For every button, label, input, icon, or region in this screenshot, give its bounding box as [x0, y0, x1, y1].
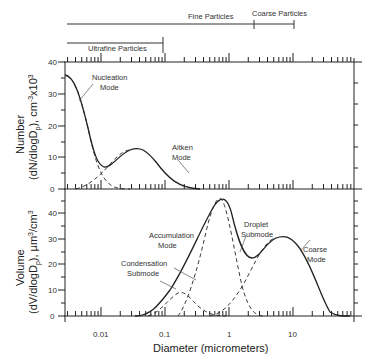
condensation-label: Condensation	[121, 259, 167, 268]
number-total-curve	[65, 75, 200, 189]
aitken-label: Aitken	[172, 143, 193, 152]
droplet-label: Droplet	[244, 220, 269, 229]
droplet-label-2: Submode	[241, 230, 273, 239]
aitken-label-2: Mode	[172, 153, 191, 162]
fine-particles-label: Fine Particles	[188, 12, 234, 21]
x-tick-1: 1	[227, 330, 232, 339]
y-tick-10: 10	[48, 286, 57, 295]
condensation-submode-curve	[148, 292, 226, 316]
coarse-label-2: Mode	[307, 255, 326, 264]
y-tick-30: 30	[48, 235, 57, 244]
y-tick-30: 30	[48, 90, 57, 99]
coarse-particles-label: Coarse Particles	[252, 9, 307, 18]
droplet-submode-curve	[178, 198, 264, 316]
y-tick-10: 10	[48, 153, 57, 162]
nucleation-leader	[79, 84, 93, 101]
y-tick-40: 40	[48, 58, 57, 67]
x-tick-0.01: 0.01	[93, 330, 109, 339]
nucleation-label-2: Mode	[100, 83, 119, 92]
aerosol-size-distribution-chart: Fine Particles Coarse Particles Ultrafin…	[0, 0, 372, 360]
coarse-label: Coarse	[303, 245, 327, 254]
accumulation-label-2: Mode	[158, 241, 177, 250]
nucleation-label: Nucleation	[92, 73, 127, 82]
y-tick-20: 20	[48, 260, 57, 269]
y-tick-20: 20	[48, 122, 57, 131]
y-tick-40: 40	[48, 209, 57, 218]
y-tick-0: 0	[50, 312, 55, 321]
accumulation-label: Accumulation	[149, 231, 194, 240]
nucleation-mode-curve	[65, 75, 130, 189]
axes	[64, 58, 362, 322]
x-tick-0.1: 0.1	[159, 330, 171, 339]
svg-text:Volume: Volume	[14, 249, 26, 286]
svg-text:(dV/dlogDp), µm3/cm3: (dV/dlogDp), µm3/cm3	[27, 210, 42, 314]
svg-text:(dN/dlogDp), cm-3x103: (dN/dlogDp), cm-3x103	[27, 74, 42, 180]
y-tick-0: 0	[50, 185, 55, 194]
svg-text:Number: Number	[14, 115, 26, 154]
x-axis-title: Diameter (micrometers)	[153, 342, 269, 354]
number-y-axis-title: Number (dN/dlogDp), cm-3x103	[14, 74, 42, 180]
condensation-label-2: Submode	[127, 269, 159, 278]
volume-y-axis-title: Volume (dV/dlogDp), µm3/cm3	[14, 210, 42, 314]
ultrafine-particles-label: Ultrafine Particles	[88, 44, 147, 53]
x-tick-10: 10	[288, 330, 297, 339]
